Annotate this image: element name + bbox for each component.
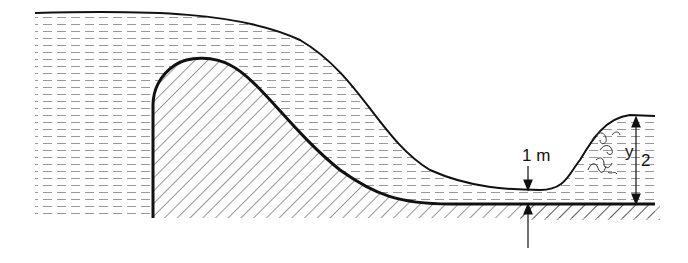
depth-2-label: y <box>625 142 634 161</box>
spillway-diagram: 1 m y 2 <box>0 0 688 263</box>
depth-2-subscript: 2 <box>641 151 650 170</box>
channel-bed-hatch <box>520 204 660 220</box>
depth-1-label: 1 m <box>522 146 550 165</box>
